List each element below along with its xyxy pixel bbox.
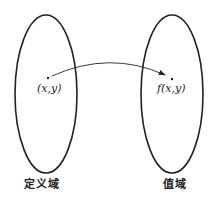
- range-point: [171, 78, 173, 80]
- range-label: 值域: [163, 175, 187, 191]
- mapping-arrow: [52, 63, 165, 76]
- domain-point-label: (x,y): [37, 82, 62, 95]
- mapping-diagram: [0, 0, 218, 199]
- domain-point: [47, 77, 49, 79]
- domain-label: 定义域: [24, 175, 60, 191]
- range-point-label: f(x,y): [157, 82, 186, 95]
